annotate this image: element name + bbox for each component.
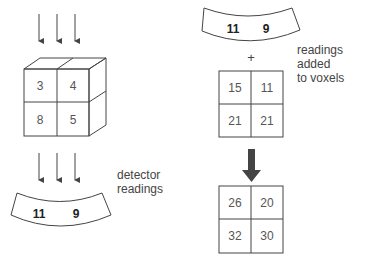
label-line: readings added: [297, 43, 377, 71]
readings-added-label: readings added to voxels: [297, 43, 377, 85]
label-line: to voxels: [297, 71, 377, 85]
detector-reading: 9: [73, 207, 80, 221]
label-line: readings: [117, 182, 163, 196]
plus-sign: +: [247, 50, 255, 65]
detector-bottom: 11 9: [11, 193, 111, 226]
grid-cell: 15: [228, 81, 242, 95]
grid-cell: 32: [228, 229, 242, 243]
cube-cell: 3: [37, 79, 44, 93]
grid-cell: 21: [260, 114, 274, 128]
cube-cell: 5: [70, 113, 77, 127]
diagram-canvas: 3 4 8 5 11 9 11 9 + 15 11 21 21: [0, 0, 377, 262]
cube-cell: 4: [70, 79, 77, 93]
detector-top: 11 9: [202, 8, 300, 41]
grid-cell: 11: [261, 81, 274, 95]
grid-cell: 30: [260, 229, 274, 243]
grid-cell: 20: [260, 196, 274, 210]
detector-reading: 9: [263, 22, 270, 36]
voxel-cube: 3 4 8 5: [24, 58, 106, 136]
detector-reading: 11: [33, 207, 46, 221]
outgoing-rays: [39, 153, 75, 180]
grid-cell: 21: [228, 114, 242, 128]
detector-reading: 11: [227, 22, 240, 36]
grid-middle: 15 11 21 21: [219, 71, 283, 137]
result-arrow-icon: [242, 149, 261, 182]
grid-cell: 26: [228, 196, 242, 210]
grid-result: 26 20 32 30: [219, 186, 283, 253]
incoming-rays: [39, 14, 75, 41]
detector-readings-label: detector readings: [117, 168, 163, 196]
cube-cell: 8: [37, 113, 44, 127]
label-line: detector: [117, 168, 163, 182]
